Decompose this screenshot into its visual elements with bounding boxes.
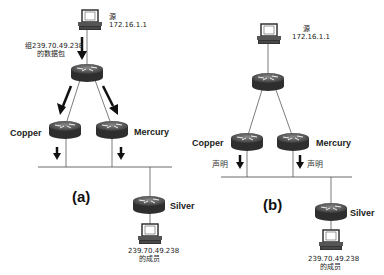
member-ip: 239.70.49.238 [308,255,359,263]
member-pc-icon [138,224,162,244]
router-icon [252,73,284,91]
source-pc-icon [257,24,281,44]
member-pc-icon [319,230,343,250]
router-silver-icon [133,196,165,214]
assert-label-left: 声明 [212,158,228,169]
router-copper-label: Copper [192,138,224,148]
assert-label-right: 声明 [307,158,323,169]
panel-b [221,24,352,250]
source-ip: 172.16.1.1 [109,21,147,29]
source-pc-icon [78,10,102,30]
source-label: 源 [109,13,116,21]
caption-a: (a) [72,188,90,205]
arrow-icon [236,155,304,169]
packet-label-2: 的数据包 [37,50,65,58]
router-silver-label: Silver [350,208,375,218]
router-mercury-label: Mercury [134,127,169,137]
router-copper-icon [49,121,81,139]
source-label: 源 [303,25,310,33]
router-silver-label: Silver [170,201,195,211]
source-ip: 172.16.1.1 [292,33,330,41]
member-ip: 239.70.49.238 [128,247,179,255]
router-mercury-label: Mercury [316,138,351,148]
router-copper-icon [231,133,263,151]
router-mercury-icon [96,121,128,139]
caption-b: (b) [263,196,282,213]
router-mercury-icon [277,133,309,151]
packet-label: 组239.70.49.238 [25,42,83,50]
member-label: 的成员 [320,263,341,271]
router-silver-icon [315,203,347,221]
router-icon [71,64,103,82]
router-copper-label: Copper [10,128,42,138]
member-label: 的成员 [139,255,160,263]
